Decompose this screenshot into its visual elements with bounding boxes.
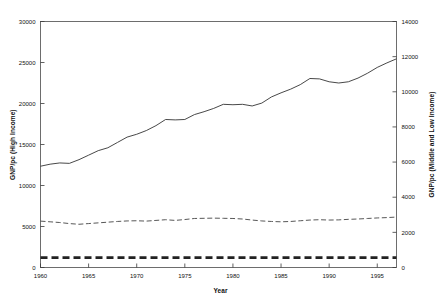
svg-text:1995: 1995 bbox=[371, 273, 385, 279]
svg-text:0: 0 bbox=[402, 265, 406, 271]
chart-canvas: 050001000015000200002500030000 020004000… bbox=[0, 0, 441, 301]
svg-text:8000: 8000 bbox=[402, 124, 416, 130]
svg-text:5000: 5000 bbox=[22, 224, 36, 230]
svg-text:12000: 12000 bbox=[402, 54, 419, 60]
svg-text:1970: 1970 bbox=[130, 273, 144, 279]
svg-text:1985: 1985 bbox=[274, 273, 288, 279]
svg-text:14000: 14000 bbox=[402, 19, 419, 25]
svg-text:6000: 6000 bbox=[402, 159, 416, 165]
svg-text:1980: 1980 bbox=[226, 273, 240, 279]
svg-text:10000: 10000 bbox=[402, 89, 419, 95]
svg-text:1960: 1960 bbox=[34, 273, 48, 279]
y-axis-left-title: GNP/pc (High Income) bbox=[9, 109, 16, 180]
svg-text:1965: 1965 bbox=[82, 273, 96, 279]
svg-text:15000: 15000 bbox=[19, 142, 36, 148]
plot-frame bbox=[41, 22, 397, 268]
y-axis-right-title: GNP/pc (Middle and Low Income) bbox=[428, 92, 435, 198]
svg-text:10000: 10000 bbox=[19, 183, 36, 189]
x-axis-ticks: 19601965197019751980198519901995 bbox=[34, 264, 385, 279]
x-axis-title: Year bbox=[0, 287, 441, 294]
data-series-layer bbox=[41, 59, 397, 258]
svg-text:30000: 30000 bbox=[19, 19, 36, 25]
series-line-1 bbox=[41, 217, 397, 224]
svg-text:25000: 25000 bbox=[19, 60, 36, 66]
chart-figure: 050001000015000200002500030000 020004000… bbox=[0, 0, 441, 301]
svg-text:1990: 1990 bbox=[322, 273, 336, 279]
svg-text:0: 0 bbox=[32, 265, 36, 271]
svg-text:20000: 20000 bbox=[19, 101, 36, 107]
series-line-0 bbox=[41, 59, 397, 166]
svg-text:2000: 2000 bbox=[402, 230, 416, 236]
svg-text:1975: 1975 bbox=[178, 273, 192, 279]
svg-text:4000: 4000 bbox=[402, 194, 416, 200]
